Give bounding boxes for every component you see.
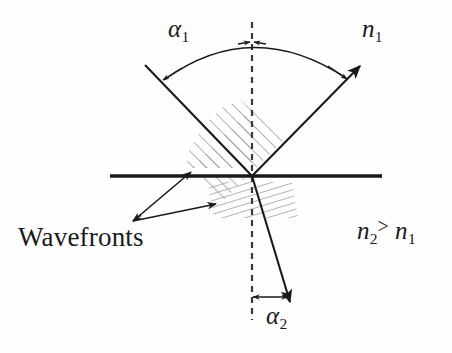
label-n2-subscript: 2 <box>370 230 378 247</box>
label-n1-subscript: 1 <box>375 28 383 45</box>
refraction-diagram: α1 n1 n2> n1 α2 Wavefronts <box>0 0 452 353</box>
label-wavefronts: Wavefronts <box>18 224 144 251</box>
label-n2-greater-n1: n2> n1 <box>357 216 416 247</box>
label-alpha1: α1 <box>168 16 189 45</box>
label-n1b-subscript: 1 <box>408 230 416 247</box>
label-alpha1-symbol: α <box>168 15 181 42</box>
wavefronts-leader-upper <box>133 172 191 221</box>
label-n1-symbol: n <box>362 15 375 42</box>
label-n1: n1 <box>362 16 383 45</box>
angle-arc-alpha1-apex-arrow-left <box>238 42 250 44</box>
angle-arc-alpha1-right-arrowhead <box>328 66 347 79</box>
angle-arc-alpha1-apex-arrow-right <box>254 42 266 44</box>
label-alpha1-subscript: 1 <box>181 28 189 45</box>
angle-arc-alpha1-left-arrowhead <box>163 68 182 80</box>
label-n1b-symbol: n <box>395 217 408 244</box>
label-alpha2-subscript: 2 <box>279 315 287 332</box>
label-alpha2-symbol: α <box>266 302 279 329</box>
label-alpha2: α2 <box>266 303 287 332</box>
reflected-ray <box>252 66 360 176</box>
diagram-canvas <box>0 0 452 353</box>
greater-than-operator: > <box>378 215 389 237</box>
wavefronts-leader-lower <box>133 204 216 221</box>
label-n2-symbol: n <box>357 217 370 244</box>
angle-arc-alpha1 <box>164 47 346 80</box>
